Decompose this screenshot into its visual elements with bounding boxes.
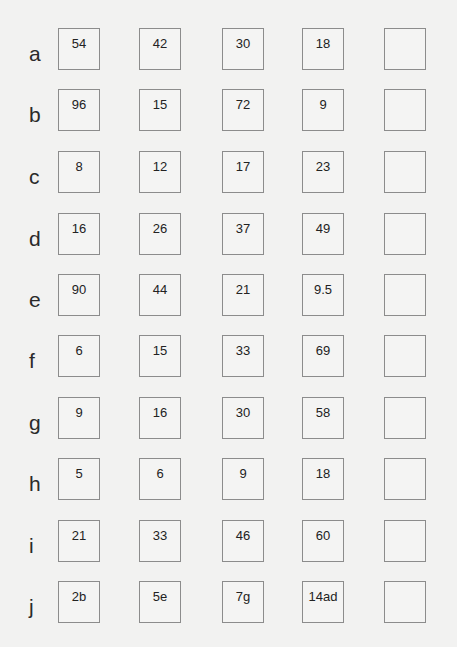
sequence-row-i: i 21 33 46 60 [0,520,457,562]
sequence-row-d: d 16 26 37 49 [0,213,457,255]
row-label: d [29,227,49,251]
term-value: 21 [223,282,263,298]
term-box: 54 [58,28,100,70]
sequence-row-e: e 90 44 21 9.5 [0,274,457,316]
row-label: j [29,595,49,619]
answer-box[interactable] [384,28,426,70]
answer-box[interactable] [384,151,426,193]
term-value: 69 [303,343,343,359]
term-box: 33 [139,520,181,562]
answer-box[interactable] [384,581,426,623]
term-value: 18 [303,36,343,52]
sequence-row-h: h 5 6 9 18 [0,458,457,500]
term-value: 18 [303,466,343,482]
answer-box[interactable] [384,520,426,562]
term-box: 21 [222,274,264,316]
term-box: 44 [139,274,181,316]
answer-box[interactable] [384,335,426,377]
answer-box[interactable] [384,274,426,316]
term-box: 7g [222,581,264,623]
term-value: 15 [140,97,180,113]
answer-box[interactable] [384,213,426,255]
term-value: 26 [140,221,180,237]
sequence-row-j: j 2b 5e 7g 14ad [0,581,457,623]
term-box: 17 [222,151,264,193]
term-box: 9 [222,458,264,500]
answer-box[interactable] [384,89,426,131]
term-box: 9.5 [302,274,344,316]
term-value: 6 [59,343,99,359]
term-box: 6 [58,335,100,377]
term-value: 7g [223,589,263,605]
term-box: 49 [302,213,344,255]
term-box: 2b [58,581,100,623]
term-value: 60 [303,528,343,544]
term-value: 6 [140,466,180,482]
term-value: 46 [223,528,263,544]
term-value: 58 [303,405,343,421]
term-box: 8 [58,151,100,193]
row-label: f [29,349,49,373]
term-box: 21 [58,520,100,562]
term-box: 16 [58,213,100,255]
term-value: 2b [59,589,99,605]
term-value: 9.5 [303,282,343,298]
term-box: 72 [222,89,264,131]
term-value: 33 [140,528,180,544]
term-box: 5e [139,581,181,623]
term-value: 33 [223,343,263,359]
term-box: 33 [222,335,264,377]
term-box: 26 [139,213,181,255]
term-box: 12 [139,151,181,193]
term-value: 42 [140,36,180,52]
term-value: 15 [140,343,180,359]
sequence-row-a: a 54 42 30 18 [0,28,457,70]
term-value: 21 [59,528,99,544]
term-value: 96 [59,97,99,113]
answer-box[interactable] [384,458,426,500]
answer-box[interactable] [384,397,426,439]
term-box: 30 [222,397,264,439]
term-box: 15 [139,335,181,377]
term-value: 14ad [303,589,343,605]
term-value: 90 [59,282,99,298]
term-box: 16 [139,397,181,439]
term-value: 9 [223,466,263,482]
term-box: 42 [139,28,181,70]
term-box: 18 [302,28,344,70]
row-label: b [29,103,49,127]
term-value: 9 [59,405,99,421]
term-value: 8 [59,159,99,175]
term-box: 90 [58,274,100,316]
term-value: 37 [223,221,263,237]
row-label: g [29,411,49,435]
term-value: 72 [223,97,263,113]
term-value: 30 [223,405,263,421]
term-value: 44 [140,282,180,298]
term-box: 14ad [302,581,344,623]
term-value: 17 [223,159,263,175]
term-box: 15 [139,89,181,131]
term-box: 5 [58,458,100,500]
term-value: 5e [140,589,180,605]
term-box: 23 [302,151,344,193]
term-value: 23 [303,159,343,175]
sequence-row-g: g 9 16 30 58 [0,397,457,439]
term-box: 9 [302,89,344,131]
row-label: e [29,288,49,312]
term-value: 5 [59,466,99,482]
row-label: c [29,165,49,189]
term-value: 54 [59,36,99,52]
term-value: 12 [140,159,180,175]
row-label: h [29,472,49,496]
term-box: 18 [302,458,344,500]
term-value: 49 [303,221,343,237]
term-box: 96 [58,89,100,131]
term-box: 69 [302,335,344,377]
row-label: a [29,42,49,66]
term-box: 46 [222,520,264,562]
term-box: 30 [222,28,264,70]
term-value: 30 [223,36,263,52]
term-box: 58 [302,397,344,439]
sequence-row-f: f 6 15 33 69 [0,335,457,377]
